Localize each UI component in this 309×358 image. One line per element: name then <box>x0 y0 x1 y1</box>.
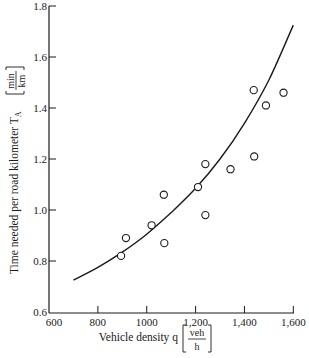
fitted-curve-path <box>73 25 293 280</box>
fitted-curve <box>73 25 293 280</box>
x-unit-bracket-right <box>208 325 211 352</box>
x-tick-label: 1000 <box>136 316 159 328</box>
x-unit-denominator: h <box>195 341 200 352</box>
x-tick-label: 1,600 <box>281 316 306 328</box>
data-point-marker <box>161 240 168 247</box>
y-tick-label: 0.6 <box>33 306 47 318</box>
y-tick-label: 1.4 <box>33 102 47 114</box>
y-axis-ticks: 0.60.81.01.21.41.61.8 <box>33 0 56 318</box>
x-tick-label: 1,400 <box>232 316 257 328</box>
y-tick-label: 1.0 <box>33 204 47 216</box>
y-unit-numerator: min <box>5 73 16 89</box>
data-point-marker <box>202 212 209 219</box>
y-unit-denominator: km <box>16 74 27 87</box>
data-point-marker <box>251 153 258 160</box>
y-tick-label: 0.8 <box>33 255 47 267</box>
scatter-chart: 60080010001,2001,4001,600 0.60.81.01.21.… <box>0 0 309 358</box>
y-axis-title: Time needed per road kilometer TA min km <box>5 67 27 274</box>
x-axis-label: Vehicle density q <box>99 331 178 344</box>
x-unit-numerator: veh <box>190 327 204 338</box>
x-unit-bracket-left <box>183 325 186 352</box>
data-point-marker <box>117 252 124 259</box>
y-axis-subscript: A <box>14 111 23 117</box>
data-point-marker <box>250 87 257 94</box>
data-point-marker <box>280 89 287 96</box>
y-unit-bracket-right <box>6 67 24 70</box>
data-points <box>117 87 287 260</box>
data-point-marker <box>194 183 201 190</box>
data-point-marker <box>160 191 167 198</box>
svg-text:Time needed per road kilometer: Time needed per road kilometer TA <box>8 111 23 274</box>
y-axis-label: Time needed per road kilometer T <box>8 117 21 274</box>
x-axis-ticks: 60080010001,2001,4001,600 <box>46 306 306 328</box>
x-axis-title: Vehicle density q veh h <box>99 325 211 352</box>
y-unit-bracket-left <box>6 91 24 94</box>
axes <box>49 6 294 313</box>
y-tick-label: 1.6 <box>33 51 47 63</box>
data-point-marker <box>202 161 209 168</box>
data-point-marker <box>148 222 155 229</box>
data-point-marker <box>227 166 234 173</box>
data-point-marker <box>262 102 269 109</box>
x-tick-label: 600 <box>46 316 63 328</box>
x-tick-label: 800 <box>90 316 107 328</box>
data-point-marker <box>122 234 129 241</box>
y-tick-label: 1.8 <box>33 0 47 12</box>
y-tick-label: 1.2 <box>33 153 47 165</box>
